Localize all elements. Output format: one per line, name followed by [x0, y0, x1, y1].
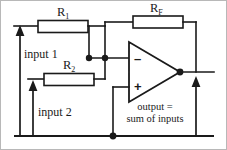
resistor-r1-label: R1 — [57, 5, 69, 21]
junction-dot-r1-branch — [86, 55, 92, 61]
resistor-r1-label-sub: 1 — [65, 12, 69, 21]
input2-arrow-head — [29, 80, 38, 91]
circuit-diagram: – + R1 R2 RF input 1 input 2 output = su… — [0, 0, 227, 150]
input2-label: input 2 — [38, 105, 72, 119]
output-label-line1: output = — [137, 101, 172, 112]
junction-dot-output — [177, 69, 184, 76]
resistor-r2-label-sub: 2 — [71, 65, 75, 74]
junction-dot-summing — [102, 55, 108, 61]
resistor-r2-label: R2 — [63, 58, 75, 74]
resistor-rf-body — [133, 16, 183, 28]
resistor-rf-label-sub: F — [158, 8, 163, 17]
resistor-r1-body — [38, 21, 88, 33]
input1-label: input 1 — [24, 47, 58, 61]
resistor-rf-label: RF — [150, 1, 163, 17]
circuit-schematic-svg: – + R1 R2 RF input 1 input 2 output = su… — [0, 0, 227, 150]
resistor-r2-body — [44, 74, 94, 86]
output-label-line2: sum of inputs — [126, 113, 183, 124]
opamp-noninverting-sign: + — [134, 79, 142, 94]
opamp-inverting-sign: – — [134, 51, 141, 66]
output-arrow-head — [192, 76, 201, 87]
junction-dot-ground — [110, 133, 117, 140]
